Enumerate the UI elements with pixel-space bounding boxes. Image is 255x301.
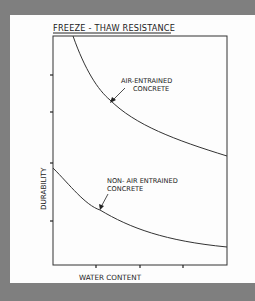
plot-frame — [53, 36, 227, 265]
y-axis-label: DURABILITY — [39, 167, 48, 210]
air-entrained-curve — [73, 36, 227, 156]
air-entrained-label-line2: CONCRETE — [133, 85, 169, 93]
non-air-entrained-arrow — [101, 194, 108, 207]
non-air-entrained-label-line2: CONCRETE — [107, 185, 143, 193]
non-air-entrained-arrowhead-icon — [99, 204, 104, 210]
chart: FREEZE - THAW RESISTANCE WATER CONTENT D… — [0, 0, 255, 301]
x-axis-label: WATER CONTENT — [79, 273, 142, 282]
non-air-entrained-label-line1: NON- AIR ENTRAINED — [107, 177, 178, 185]
chart-title: FREEZE - THAW RESISTANCE — [53, 23, 175, 33]
air-entrained-arrow — [113, 88, 125, 100]
air-entrained-label-line1: AIR-ENTRAINED — [121, 77, 172, 85]
